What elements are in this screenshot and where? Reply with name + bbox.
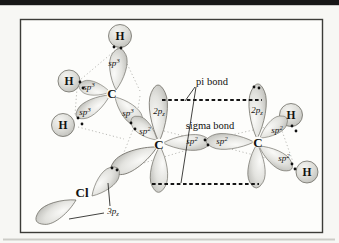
hydrogen-label: H <box>116 30 125 42</box>
hydrogen-label: H <box>303 166 312 178</box>
orbital-diagram-canvas: C C C H H H H H Cl sp3 sp3 sp3 sp3 sp2 s… <box>0 0 339 243</box>
orbital-hybridization-figure: C C C H H H H H Cl sp3 sp3 sp3 sp3 sp2 s… <box>0 0 339 243</box>
hydrogen-label: H <box>59 119 68 131</box>
pi-bond-annotation: pi bond <box>196 76 229 87</box>
bottom-rule-bar <box>3 239 335 241</box>
sigma-bond-annotation: sigma bond <box>186 120 235 131</box>
carbon-label: C <box>154 137 163 152</box>
carbon-label: C <box>253 135 262 150</box>
carbon-label: C <box>107 86 116 101</box>
hydrogen-label: H <box>287 109 296 121</box>
chlorine-label: Cl <box>76 185 89 200</box>
hydrogen-label: H <box>65 75 74 87</box>
top-rule-bar <box>0 0 339 5</box>
